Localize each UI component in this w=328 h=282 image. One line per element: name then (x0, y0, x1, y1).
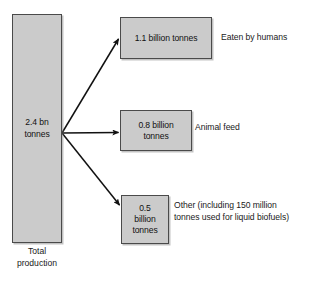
animal-feed-box: 0.8 billion tonnes (120, 110, 192, 151)
arrow-to-animal-feed (62, 133, 119, 134)
other-value: 0.5 billion tonnes (130, 203, 159, 236)
eaten-by-humans-box: 1.1 billion tonnes (120, 17, 212, 59)
other-label: Other (including 150 million tonnes used… (174, 200, 289, 223)
total-production-caption: Total production (0, 246, 74, 269)
food-production-flow-diagram: 2.4 bn tonnes Total production 1.1 billi… (0, 0, 328, 282)
total-production-bar: 2.4 bn tonnes (12, 14, 62, 243)
animal-feed-label: Animal feed (195, 122, 240, 134)
arrow-to-eaten-by-humans (62, 39, 119, 133)
eaten-by-humans-value: 1.1 billion tonnes (133, 33, 200, 44)
other-box: 0.5 billion tonnes (121, 195, 169, 244)
eaten-by-humans-label: Eaten by humans (221, 32, 287, 44)
arrow-to-other (62, 133, 120, 205)
total-production-value: 2.4 bn tonnes (22, 117, 51, 140)
animal-feed-value: 0.8 billion tonnes (136, 120, 175, 142)
